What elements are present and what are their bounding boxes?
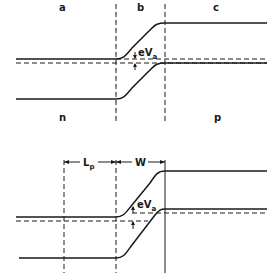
pn-junction-band-diagram-figure: a b c eVa n p Lp (0, 0, 280, 273)
n-region-label: n (59, 112, 66, 123)
bottom-band-diagram: Lp W eVa (16, 157, 267, 273)
arrowhead-up-icon (131, 221, 135, 225)
arrowhead-right-icon (111, 160, 116, 164)
p-region-label: p (214, 112, 221, 123)
conduction-band-edge-2 (16, 171, 267, 217)
diffusion-length-label: Lp (83, 157, 94, 171)
arrowhead-up-icon (133, 63, 137, 67)
arrowhead-left-icon (64, 160, 69, 164)
voltage-label-bottom: eVa (137, 199, 157, 213)
region-label-b: b (137, 2, 144, 13)
valence-band-edge (16, 63, 267, 99)
top-band-diagram: a b c eVa n p (16, 2, 267, 124)
arrowhead-down-icon (133, 55, 137, 59)
depletion-width-label: W (135, 157, 146, 168)
arrowhead-right-icon (160, 160, 165, 164)
arrowhead-left-icon (116, 160, 121, 164)
region-label-c: c (213, 2, 219, 13)
region-label-a: a (59, 2, 66, 13)
